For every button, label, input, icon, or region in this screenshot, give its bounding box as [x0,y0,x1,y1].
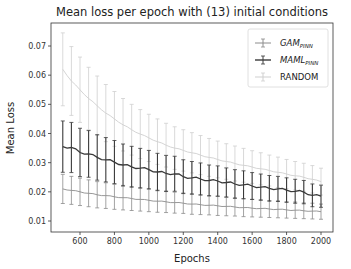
chart-canvas: Mean loss per epoch with (13) initial co… [0,0,351,269]
x-tick-label: 1000 [139,237,159,246]
y-tick-label: 0.01 [28,217,46,226]
y-tick-label: 0.07 [28,42,46,51]
x-axis-label: Epochs [174,253,210,264]
x-tick-label: 800 [107,237,122,246]
y-tick-label: 0.03 [28,159,46,168]
y-axis-label: Mean Loss [5,102,16,154]
x-tick-label: 1400 [208,237,228,246]
y-tick-label: 0.05 [28,100,46,109]
x-tick-label: 1800 [276,237,296,246]
chart-figure: Mean loss per epoch with (13) initial co… [0,0,351,269]
legend-label: RANDOM [280,72,318,82]
x-tick-label: 1200 [173,237,193,246]
x-tick-label: 1600 [242,237,262,246]
x-tick-label: 600 [72,237,87,246]
chart-title: Mean loss per epoch with (13) initial co… [56,5,328,19]
x-axis: 600800100012001400160018002000 [72,232,331,246]
y-tick-label: 0.02 [28,188,46,197]
x-tick-label: 2000 [311,237,331,246]
y-axis: 0.010.020.030.040.050.060.07 [28,42,51,226]
legend: GAMPINNMAMLPINNRANDOM [248,29,328,87]
y-tick-label: 0.06 [28,71,46,80]
y-tick-label: 0.04 [28,130,46,139]
